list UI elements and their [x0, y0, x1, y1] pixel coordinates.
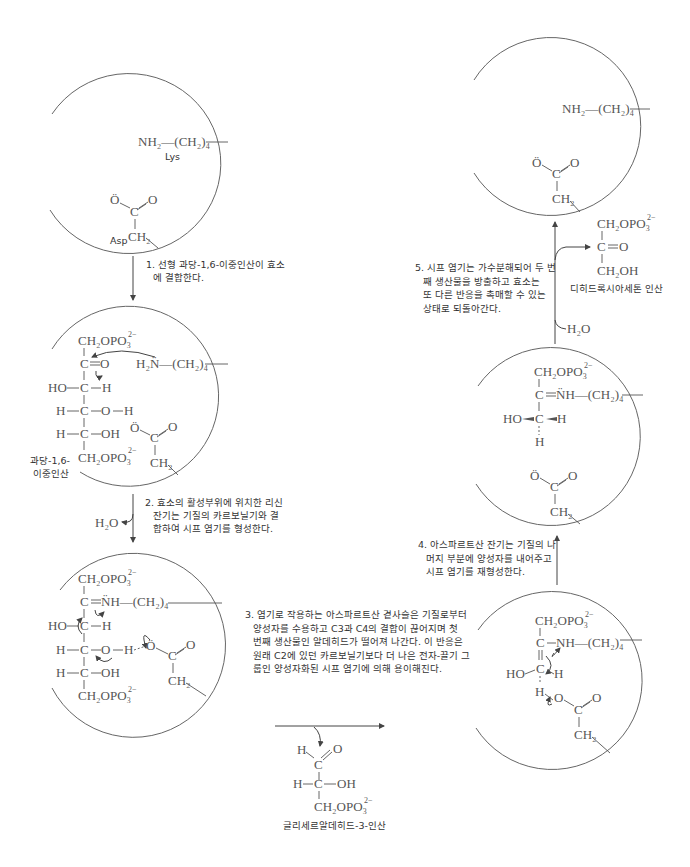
svg-text:C: C [597, 239, 606, 254]
g3p-label: 글리세르알데히드-3-인산 [283, 820, 386, 831]
aldolase-mechanism-diagram: NH₂—(CH₂)₄ Lys Ö C O CH₂ Asp 1. 선형 과당-1,… [0, 0, 690, 867]
svg-text:CH₂: CH₂ [574, 727, 597, 742]
enzyme-panel-2: CH₂OPO₃ 2− C O H₂N̈—(CH₂)₄ HO C H H C O … [48, 306, 228, 486]
svg-text:C: C [80, 403, 89, 418]
water-release-arrow [122, 514, 133, 522]
water-label-step5: H₂O [567, 321, 590, 336]
svg-text:OH: OH [101, 665, 120, 680]
dhap-structure: CH₂OPO₃ 2− C O CH₂OH [597, 213, 656, 278]
svg-text:CH₂OPO₃: CH₂OPO₃ [534, 364, 587, 379]
svg-text:2−: 2− [128, 330, 137, 339]
svg-text:C: C [536, 635, 545, 650]
svg-text:2−: 2− [128, 568, 137, 577]
svg-text:C: C [536, 661, 545, 676]
step-1-text: 1. 선형 과당-1,6-이중인산이 효소 에 결합한다. [146, 259, 288, 283]
svg-text:Ö: Ö [130, 420, 139, 435]
svg-text:Ö: Ö [530, 468, 539, 483]
svg-text:OH: OH [101, 426, 120, 441]
dhap-release-arrow [555, 247, 590, 260]
svg-text:NH₂—(CH₂)₄: NH₂—(CH₂)₄ [138, 134, 211, 149]
svg-text:H: H [56, 403, 65, 418]
svg-text:CH₂OPO₃: CH₂OPO₃ [78, 333, 131, 348]
svg-text:O: O [100, 356, 109, 371]
svg-text:CH₂OPO₃: CH₂OPO₃ [78, 571, 131, 586]
svg-text:CH₂: CH₂ [150, 455, 173, 470]
svg-text:H: H [297, 742, 306, 757]
svg-text:N̈H—(CH₂)₄: N̈H—(CH₂)₄ [556, 387, 624, 402]
svg-text:C: C [80, 642, 89, 657]
svg-text:O: O [619, 239, 628, 254]
fbp-label: 과당-1,6- 이중인산 [30, 455, 73, 479]
svg-text:O: O [101, 403, 110, 418]
g3p-release-arrow [314, 727, 320, 746]
step-3-text: 3. 염기로 작용하는 아스파르트산 곁사슬은 기질로부터 양성자를 수용하고 … [245, 609, 473, 674]
svg-text:C: C [80, 380, 89, 395]
step-4-text: 4. 아스파르트산 잔기는 기질의 나 머지 부분에 양성자를 내어주고 시프 … [418, 539, 559, 577]
svg-text:C: C [535, 387, 544, 402]
svg-text:H: H [535, 684, 544, 699]
water-uptake-arrow [555, 320, 566, 329]
svg-text:O: O [186, 637, 195, 652]
svg-text:H: H [102, 618, 111, 633]
svg-text:2−: 2− [584, 361, 593, 370]
svg-text:C: C [130, 204, 139, 219]
step-5-text: 5. 시프 염기는 가수분해되어 두 번 째 생산물을 방출하고 효소는 또 다… [415, 262, 559, 314]
svg-text:H: H [56, 665, 65, 680]
svg-text:CH₂OPO₃: CH₂OPO₃ [78, 450, 131, 465]
svg-text:C: C [550, 479, 559, 494]
svg-text:C: C [80, 426, 89, 441]
svg-text:H: H [293, 776, 302, 791]
svg-text:NH—(CH₂)₄: NH—(CH₂)₄ [556, 635, 624, 650]
svg-text:H₂N̈—(CH₂)₄: H₂N̈—(CH₂)₄ [136, 356, 209, 371]
svg-text:O: O [148, 192, 157, 207]
water-label-step2: H₂O [95, 515, 118, 530]
svg-text:O: O [568, 468, 577, 483]
enzyme-panel-6: NH₂—(CH₂)₄ Ö C O CH₂ [474, 37, 650, 215]
svg-text:C: C [314, 776, 323, 791]
svg-text:CH₂: CH₂ [128, 229, 151, 244]
svg-text:C: C [535, 411, 544, 426]
svg-text:O: O [168, 419, 177, 434]
svg-text:O: O [554, 690, 563, 705]
svg-text:CH₂: CH₂ [550, 504, 573, 519]
svg-text:2−: 2− [364, 796, 373, 805]
enzyme-panel-4: CH₂OPO₃ 2− C NH—(CH₂)₄ C HO H H O C O CH… [476, 591, 642, 769]
svg-text:H: H [124, 403, 133, 418]
svg-text:2−: 2− [128, 685, 137, 694]
svg-text:C: C [150, 430, 159, 445]
svg-text:HO: HO [48, 618, 67, 633]
enzyme-panel-5: CH₂OPO₃ 2− C N̈H—(CH₂)₄ HO C H H Ö C O C… [476, 348, 643, 526]
svg-text:H: H [554, 666, 563, 681]
svg-text:H: H [56, 426, 65, 441]
svg-text:C: C [80, 618, 89, 633]
svg-text:CH₂OPO₃: CH₂OPO₃ [314, 799, 367, 814]
svg-text:O: O [101, 642, 110, 657]
svg-text:H: H [102, 380, 111, 395]
svg-text:CH₂OPO₃: CH₂OPO₃ [597, 216, 650, 231]
svg-text:HO: HO [48, 380, 67, 395]
svg-text:CH₂OPO₃: CH₂OPO₃ [78, 688, 131, 703]
svg-text:2−: 2− [128, 446, 137, 455]
svg-text:C: C [168, 648, 177, 663]
enzyme-panel-3: CH₂OPO₃ 2− C N̈H—(CH₂)₄ HO C H H C O H H… [48, 553, 226, 737]
dhap-label: 디히드록시아세톤 인산 [570, 283, 663, 294]
enzyme-panel-1: NH₂—(CH₂)₄ Lys Ö C O CH₂ Asp [50, 74, 228, 254]
svg-text:CH₂: CH₂ [168, 673, 191, 688]
svg-text:NH₂—(CH₂)₄: NH₂—(CH₂)₄ [562, 101, 635, 116]
svg-text:H: H [124, 642, 133, 657]
svg-text:H: H [56, 642, 65, 657]
svg-text:N̈H—(CH₂)₄: N̈H—(CH₂)₄ [101, 594, 169, 609]
svg-text:C: C [314, 757, 323, 772]
svg-text:CH₂OPO₃: CH₂OPO₃ [535, 613, 588, 628]
svg-text:HO: HO [506, 666, 525, 681]
g3p-structure: H C O H C OH CH₂OPO₃ 2− [293, 741, 373, 814]
svg-text:OH: OH [337, 776, 356, 791]
svg-text:CH₂OH: CH₂OH [597, 263, 638, 278]
svg-text:O: O [592, 690, 601, 705]
svg-text:O: O [333, 741, 342, 756]
svg-text:Ö: Ö [110, 192, 119, 207]
svg-text:2−: 2− [647, 213, 656, 222]
svg-text:CH₂: CH₂ [552, 191, 575, 206]
svg-text:HO: HO [503, 411, 522, 426]
asp-label: Asp [110, 235, 127, 246]
